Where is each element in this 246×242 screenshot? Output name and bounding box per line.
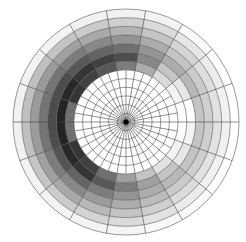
heatmap-cell xyxy=(114,52,138,62)
polar-heatmap-chart xyxy=(0,0,246,242)
heatmap-cell xyxy=(114,182,138,192)
center-dot xyxy=(123,119,128,124)
heatmap-cell xyxy=(115,61,136,70)
heatmap-cell xyxy=(112,44,139,54)
heatmap-cell xyxy=(115,173,136,182)
heatmap-cell xyxy=(112,190,139,200)
